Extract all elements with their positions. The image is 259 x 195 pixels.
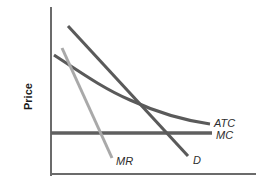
economics-chart: ATC MC D MR Price — [0, 0, 259, 195]
demand-curve — [68, 26, 188, 156]
atc-label: ATC — [213, 117, 235, 129]
demand-label: D — [193, 154, 201, 166]
mc-label: MC — [216, 129, 233, 141]
atc-curve — [54, 55, 210, 124]
chart-plot-area: ATC MC D MR Price — [0, 0, 259, 195]
mr-label: MR — [116, 155, 133, 167]
y-axis-title: Price — [22, 83, 34, 110]
